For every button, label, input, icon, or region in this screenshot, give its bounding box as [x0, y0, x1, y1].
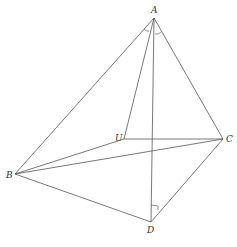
edge-ac: [154, 18, 223, 139]
vertex-label-c: C: [226, 134, 233, 144]
angle-arc-a-left: [144, 29, 149, 31]
right-angle-mark-d: [151, 205, 158, 210]
tetrahedron-diagram: A U C B D: [0, 0, 237, 247]
vertex-label-d: D: [146, 225, 154, 235]
edges: [15, 18, 223, 222]
vertex-label-u: U: [115, 133, 123, 143]
vertex-labels: A U C B D: [5, 5, 233, 235]
edge-bd: [15, 174, 151, 222]
vertex-label-a: A: [150, 5, 158, 15]
edge-bc: [15, 139, 223, 174]
edge-ub: [15, 139, 124, 174]
vertex-label-b: B: [5, 170, 13, 180]
angle-arc-a-right: [155, 32, 161, 34]
edge-cd: [151, 139, 223, 222]
edge-au: [124, 18, 154, 139]
edge-ad: [151, 18, 154, 222]
edge-ab: [15, 18, 154, 174]
